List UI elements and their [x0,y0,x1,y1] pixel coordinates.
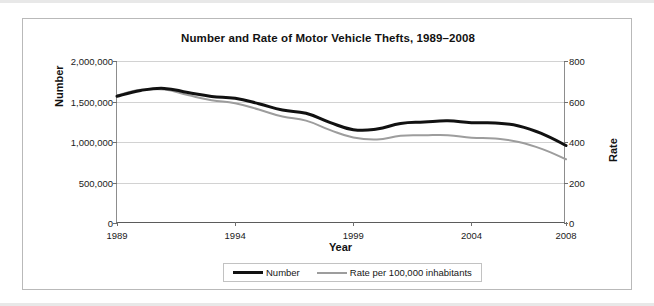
legend-label: Rate per 100,000 inhabitants [350,267,472,278]
y-axis-tick-label-left: 0 [108,218,113,229]
x-axis-tick-label: 1989 [106,230,127,241]
y-axis-tick-label-left: 1,000,000 [71,137,113,148]
y-axis-tick-label-left: 1,500,000 [71,96,113,107]
y-axis-label-left: Number [53,65,65,107]
y-axis-tick-label-left: 500,000 [79,177,113,188]
y-axis-tick-label-right: 600 [569,96,585,107]
x-axis-tick-label: 1999 [343,230,364,241]
plot-area: 0500,0001,000,0001,500,0002,000,00002004… [116,61,565,223]
line-swatch-icon [317,272,347,274]
x-axis-tick-mark [566,222,567,226]
y-axis-label-right: Rate [607,138,619,162]
x-axis-tick-label: 2004 [461,230,482,241]
chart-frame: Number and Rate of Motor Vehicle Thefts,… [22,18,632,290]
line-swatch-icon [233,271,263,274]
x-axis-label: Year [116,241,565,253]
y-axis-tick-label-right: 200 [569,177,585,188]
y-axis-tick-label-right: 800 [569,56,585,67]
chart-page: Number and Rate of Motor Vehicle Thefts,… [0,0,654,306]
series-canvas [117,61,566,223]
legend-item-rate: Rate per 100,000 inhabitants [317,267,472,278]
chart-title: Number and Rate of Motor Vehicle Thefts,… [23,32,633,44]
legend-item-number: Number [233,267,300,278]
y-axis-tick-label-right: 400 [569,137,585,148]
series-line-number [117,88,566,145]
x-axis-tick-label: 1994 [225,230,246,241]
y-axis-tick-label-right: 0 [569,218,574,229]
legend-label: Number [266,267,300,278]
chart-legend: Number Rate per 100,000 inhabitants [223,263,482,282]
scan-artifact-top [0,0,654,3]
y-axis-tick-label-left: 2,000,000 [71,56,113,67]
x-axis-tick-label: 2008 [555,230,576,241]
